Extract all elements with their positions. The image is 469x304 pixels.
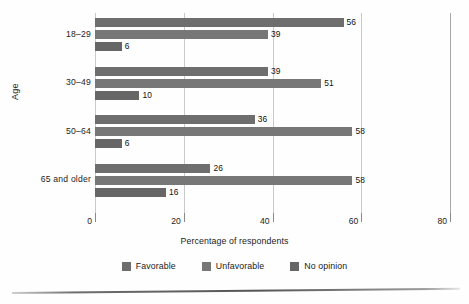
bar <box>95 164 210 173</box>
x-tick-label-80: 80 <box>423 216 447 226</box>
bar <box>95 91 139 100</box>
x-axis-title: Percentage of respondents <box>0 236 469 246</box>
bar-value-label: 39 <box>271 67 281 76</box>
y-axis-tick-label: 30–49 <box>11 77 91 87</box>
x-axis: 020406080 <box>95 213 450 233</box>
x-tick-mark-0 <box>95 213 96 222</box>
bar-value-label: 6 <box>125 42 130 51</box>
x-tick-label-60: 60 <box>334 216 358 226</box>
bar <box>95 18 344 27</box>
bar-value-label: 6 <box>125 139 130 148</box>
legend-swatch-icon <box>122 262 131 271</box>
bar <box>95 79 321 88</box>
bar-value-label: 16 <box>169 188 179 197</box>
y-axis-tick-label: 18–29 <box>11 29 91 39</box>
chart-figure: Age 18–2930–4950–6465 and older 56396395… <box>0 0 469 304</box>
bar-value-label: 36 <box>258 115 268 124</box>
bar-value-label: 58 <box>355 176 365 185</box>
y-axis-category-labels: 18–2930–4950–6465 and older <box>5 0 91 304</box>
y-axis-tick-label: 50–64 <box>11 126 91 136</box>
bar <box>95 139 122 148</box>
x-tick-label-40: 40 <box>246 216 270 226</box>
legend-item[interactable]: Favorable <box>122 261 176 271</box>
bar-value-label: 26 <box>213 164 223 173</box>
legend-swatch-icon <box>290 262 299 271</box>
legend-item[interactable]: Unfavorable <box>202 261 265 271</box>
x-tick-label-20: 20 <box>157 216 181 226</box>
bar <box>95 67 268 76</box>
bar-value-label: 56 <box>347 18 357 27</box>
y-axis-tick-label: 65 and older <box>11 174 91 184</box>
legend-swatch-icon <box>202 262 211 271</box>
plot-area: 5639639511036586265816 <box>95 13 450 213</box>
bar <box>95 176 352 185</box>
bar-value-label: 10 <box>142 91 152 100</box>
legend-label: No opinion <box>304 261 347 271</box>
legend-item[interactable]: No opinion <box>290 261 347 271</box>
bar-value-label: 58 <box>355 127 365 136</box>
x-tick-mark-20 <box>184 213 185 222</box>
bar <box>95 127 352 136</box>
legend-label: Unfavorable <box>216 261 265 271</box>
legend-label: Favorable <box>136 261 176 271</box>
bar <box>95 42 122 51</box>
x-tick-mark-60 <box>361 213 362 222</box>
bar-value-label: 51 <box>324 79 334 88</box>
x-tick-mark-80 <box>450 213 451 222</box>
bar <box>95 30 268 39</box>
x-tick-label-0: 0 <box>68 216 92 226</box>
bar <box>95 115 255 124</box>
gridline-80 <box>450 13 451 213</box>
bar-value-label: 39 <box>271 30 281 39</box>
x-tick-mark-40 <box>273 213 274 222</box>
bar <box>95 188 166 197</box>
chart-legend: FavorableUnfavorableNo opinion <box>0 261 469 271</box>
